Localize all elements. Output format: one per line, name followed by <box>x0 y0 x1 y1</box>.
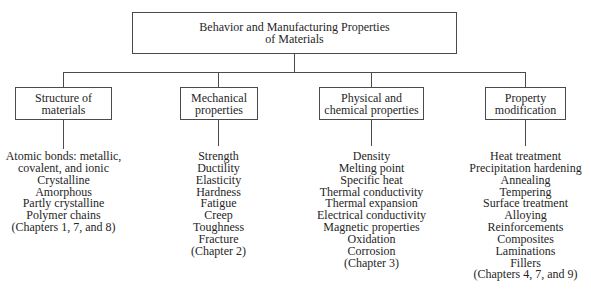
connector-drop-structure <box>63 72 64 87</box>
connector-drop-physical <box>371 72 372 87</box>
category-box-modification: Property modification <box>485 87 566 120</box>
category-label-line2: properties <box>195 104 243 116</box>
connector-list-mechanical <box>218 120 219 146</box>
category-label-line1: Mechanical <box>191 92 247 104</box>
category-box-mechanical: Mechanical properties <box>180 87 258 120</box>
list-mechanical: Strength Ductility Elasticity Hardness F… <box>168 151 269 258</box>
list-modification: Heat treatment Precipitation hardening A… <box>462 151 589 281</box>
root-box: Behavior and Manufacturing Properties of… <box>132 12 457 54</box>
connector-root-down <box>294 54 295 72</box>
category-label-line1: Physical and <box>341 92 402 104</box>
connector-drop-modification <box>525 72 526 87</box>
list-item: (Chapter 3) <box>311 258 432 270</box>
connector-horizontal-bus <box>63 72 526 73</box>
root-title-line2: of Materials <box>265 33 323 45</box>
category-label-line2: modification <box>495 104 556 116</box>
connector-drop-mechanical <box>218 72 219 87</box>
list-item: (Chapters 1, 7, and 8) <box>0 222 127 234</box>
list-item: (Chapter 2) <box>168 246 269 258</box>
category-label-line2: chemical properties <box>324 104 418 116</box>
list-physical: Density Melting point Specific heat Ther… <box>311 151 432 269</box>
connector-list-structure <box>63 120 64 149</box>
list-item: (Chapters 4, 7, and 9) <box>462 269 589 281</box>
category-box-physical: Physical and chemical properties <box>319 87 424 120</box>
category-label-line2: materials <box>42 104 86 116</box>
category-label-line1: Property <box>505 92 546 104</box>
category-box-structure: Structure of materials <box>15 87 112 120</box>
list-structure: Atomic bonds: metallic, covalent, and io… <box>0 151 127 234</box>
category-label-line1: Structure of <box>35 92 92 104</box>
connector-list-modification <box>525 120 526 146</box>
connector-list-physical <box>371 120 372 146</box>
